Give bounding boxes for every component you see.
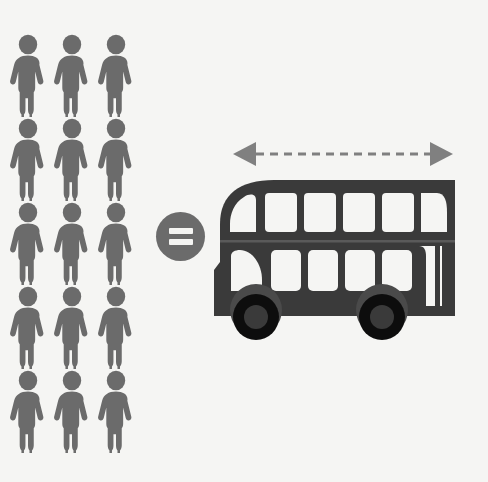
- person-label: person 14: [50, 453, 51, 454]
- measure-arrow: [228, 138, 458, 170]
- bus-rear-platform: [419, 246, 442, 306]
- people-pictogram-group: person 1 person 2 person 3: [6, 33, 138, 453]
- bus-icon: double-decker bus: [214, 176, 462, 348]
- person-icon: person 5: [50, 117, 94, 201]
- person-icon: person 11: [50, 285, 94, 369]
- person-icon: person 13: [6, 369, 50, 453]
- arrowhead-left-icon: [233, 142, 256, 166]
- bus-upper-window: [382, 193, 414, 232]
- infographic-canvas: person 1 person 2 person 3: [0, 0, 488, 482]
- person-icon: person 10: [6, 285, 50, 369]
- person-icon: person 1: [6, 33, 50, 117]
- person-icon: person 12: [94, 285, 138, 369]
- person-label: person 13: [6, 453, 7, 454]
- bus-upper-window: [343, 193, 375, 232]
- person-icon: person 2: [50, 33, 94, 117]
- person-icon: person 3: [94, 33, 138, 117]
- bus-upper-window: [304, 193, 336, 232]
- person-label: person 15: [94, 453, 95, 454]
- bus-grab-pole: [435, 246, 440, 306]
- person-icon: person 14: [50, 369, 94, 453]
- equals-badge: =: [156, 212, 205, 261]
- bus-wheel-rear: [359, 294, 405, 340]
- bus-upper-window: [265, 193, 297, 232]
- equals-bar-bottom: [169, 239, 193, 245]
- person-icon: person 4: [6, 117, 50, 201]
- person-icon: person 7: [6, 201, 50, 285]
- equals-glyph-label: =: [180, 236, 181, 237]
- bus-platform-edge: [419, 246, 426, 306]
- person-icon: person 15: [94, 369, 138, 453]
- person-icon: person 6: [94, 117, 138, 201]
- bus-wheel-front: [233, 294, 279, 340]
- equals-bar-top: [169, 228, 193, 234]
- person-icon: person 9: [94, 201, 138, 285]
- arrowhead-right-icon: [430, 142, 453, 166]
- bus-upper-window: [421, 193, 447, 232]
- bus-lower-window: [308, 250, 338, 291]
- bus-lower-window: [345, 250, 375, 291]
- person-icon: person 8: [50, 201, 94, 285]
- bus-beltline: [220, 240, 455, 243]
- bus-lower-window: [271, 250, 301, 291]
